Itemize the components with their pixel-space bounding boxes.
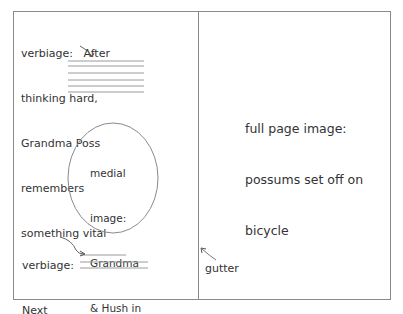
gutter-arrow-icon bbox=[202, 249, 216, 260]
medial-image-oval bbox=[68, 123, 158, 233]
text-placeholder-lines-top bbox=[68, 61, 144, 92]
sketch-lines bbox=[0, 0, 403, 314]
text-placeholder-lines-bottom bbox=[80, 255, 148, 268]
